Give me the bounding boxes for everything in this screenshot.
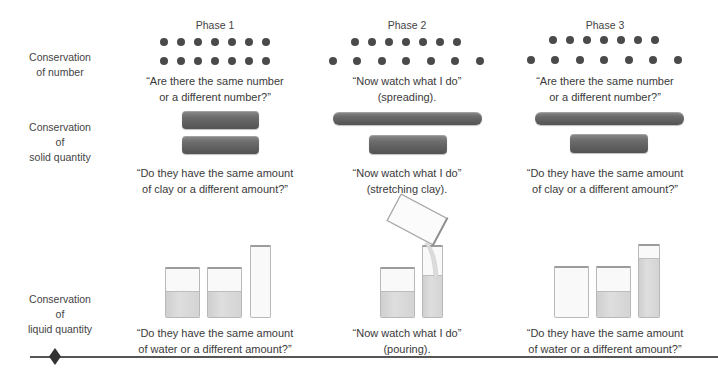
caption-solid-phase-1: “Do they have the same amount of clay or… [120, 165, 310, 197]
dot-icon [576, 56, 584, 64]
dot-icon [329, 57, 337, 65]
dot-icon [211, 38, 219, 46]
beaker-icon [596, 266, 631, 318]
dot-icon [453, 38, 461, 46]
caption-line: of clay or a different amount?” [120, 181, 310, 197]
dot-icon [527, 56, 535, 64]
row-label-line: of number [5, 65, 115, 80]
water-fill [208, 291, 241, 317]
dot-icon [402, 57, 410, 65]
caption-number-phase-3: “Are there the same number or a differen… [510, 73, 700, 105]
caption-number-phase-2: “Now watch what I do” (spreading). [312, 73, 502, 105]
diamond-icon [49, 348, 61, 365]
clay-roll-icon [333, 112, 482, 125]
row-label-line: solid quantity [5, 150, 115, 165]
caption-liquid-phase-1: “Do they have the same amount of water o… [120, 325, 310, 357]
caption-line: (pouring). [312, 341, 502, 357]
caption-number-phase-1: “Are there the same number or a differen… [120, 73, 310, 105]
caption-line: “Are there the same number [510, 73, 700, 89]
dot-icon [194, 57, 202, 65]
water-fill [423, 275, 442, 317]
dot-icon [351, 38, 359, 46]
dot-icon [353, 57, 361, 65]
caption-line: of water or a different amount?” [120, 341, 310, 357]
dot-icon [583, 36, 591, 44]
dot-icon [634, 36, 642, 44]
caption-line: “Now watch what I do” [312, 165, 502, 181]
caption-line: or a different number?” [510, 89, 700, 105]
dot-icon [378, 57, 386, 65]
beaker-icon [207, 267, 242, 318]
caption-line: “Do they have the same amount [510, 165, 700, 181]
beaker-icon [554, 266, 589, 318]
water-fill [381, 291, 414, 317]
clay-roll-icon [570, 134, 648, 153]
dot-icon [476, 57, 484, 65]
dot-icon [674, 56, 682, 64]
dot-icon [194, 38, 202, 46]
dot-icon [549, 36, 557, 44]
caption-line: “Now watch what I do” [312, 325, 502, 341]
row-label-line: Conservation [5, 50, 115, 65]
dot-icon [427, 57, 435, 65]
caption-liquid-phase-2: “Now watch what I do” (pouring). [312, 325, 502, 357]
row-label-line: of [5, 307, 115, 322]
dot-icon [245, 57, 253, 65]
dot-icon [245, 38, 253, 46]
clay-roll-icon [369, 135, 447, 154]
row-label-line: of [5, 135, 115, 150]
dot-icon [451, 57, 459, 65]
dot-icon [419, 38, 427, 46]
caption-liquid-phase-3: “Do they have the same amount of water o… [510, 325, 700, 357]
dot-icon [600, 56, 608, 64]
dot-icon [436, 38, 444, 46]
caption-line: or a different number?” [120, 89, 310, 105]
water-fill [639, 258, 659, 317]
dot-icon [651, 36, 659, 44]
dot-icon [160, 57, 168, 65]
tall-glass-icon [250, 245, 271, 318]
dot-icon [177, 38, 185, 46]
caption-line: (spreading). [312, 89, 502, 105]
beaker-icon [165, 267, 200, 318]
row-label-solid: Conservation of solid quantity [5, 120, 115, 165]
dot-icon [649, 56, 657, 64]
dot-icon [160, 38, 168, 46]
caption-line: “Do they have the same amount [510, 325, 700, 341]
caption-line: of clay or a different amount?” [510, 181, 700, 197]
dot-icon [385, 38, 393, 46]
water-fill [597, 291, 630, 317]
row-label-line: Conservation [5, 120, 115, 135]
bottom-divider [30, 356, 718, 358]
caption-line: “Do they have the same amount [120, 165, 310, 181]
dot-icon [566, 36, 574, 44]
row-label-line: Conservation [5, 292, 115, 307]
caption-solid-phase-3: “Do they have the same amount of clay or… [510, 165, 700, 197]
caption-line: “Do they have the same amount [120, 325, 310, 341]
phase-1-title: Phase 1 [155, 19, 275, 31]
dot-icon [551, 56, 559, 64]
beaker-icon [380, 267, 415, 318]
caption-line: “Are there the same number [120, 73, 310, 89]
dot-icon [625, 56, 633, 64]
dot-icon [402, 38, 410, 46]
row-label-number: Conservation of number [5, 50, 115, 80]
tall-glass-icon [638, 244, 660, 318]
dot-icon [368, 38, 376, 46]
clay-roll-icon [182, 136, 259, 154]
pour-stream-icon [424, 240, 444, 280]
phase-2-title: Phase 2 [347, 19, 467, 31]
dot-icon [228, 38, 236, 46]
dot-icon [600, 36, 608, 44]
dot-icon [262, 57, 270, 65]
clay-roll-icon [182, 111, 259, 129]
row-label-liquid: Conservation of liquid quantity [5, 292, 115, 337]
caption-line: “Now watch what I do” [312, 73, 502, 89]
pouring-beaker-icon [378, 190, 458, 255]
dot-icon [262, 38, 270, 46]
water-fill [166, 291, 199, 317]
dot-icon [177, 57, 185, 65]
dot-icon [228, 57, 236, 65]
caption-line: of water or a different amount?” [510, 341, 700, 357]
dot-icon [211, 57, 219, 65]
